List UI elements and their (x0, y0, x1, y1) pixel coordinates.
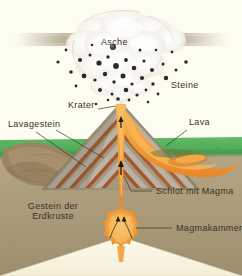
label-steine: Steine (171, 80, 199, 90)
label-gestein-line2: Erdkruste (32, 211, 74, 221)
label-gestein-der-erdkruste: Gestein der Erdkruste (14, 201, 92, 221)
label-gestein-line1: Gestein der (28, 201, 78, 211)
label-schlot-mit-magma: Schlot mit Magma (156, 186, 234, 196)
label-lava: Lava (189, 117, 210, 127)
label-krater: Krater (68, 100, 95, 110)
label-lavagestein: Lavagestein (8, 119, 60, 129)
label-magmakammer: Magmakammer (176, 223, 242, 233)
volcano-diagram: Asche Steine Krater Lava Lavagestein Sch… (0, 0, 242, 276)
label-asche: Asche (101, 37, 128, 47)
